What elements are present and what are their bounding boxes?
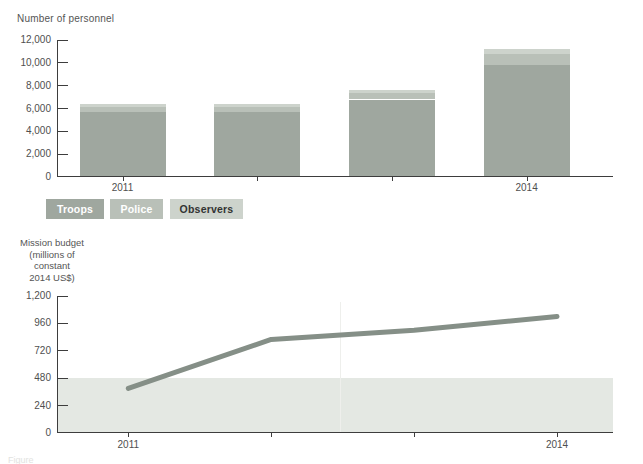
bar-segment-troops-2011 — [80, 112, 166, 176]
bar-segment-troops-2014 — [484, 65, 570, 176]
bar-segment-police-2012 — [214, 107, 300, 112]
legend-chip-troops: Troops — [46, 199, 104, 219]
personnel-y-tick — [58, 131, 68, 132]
bar-segment-troops-2013 — [349, 100, 435, 176]
legend-label-troops: Troops — [57, 203, 93, 215]
personnel-x-tick — [257, 177, 258, 181]
bar-segment-police-2011 — [80, 107, 166, 112]
bar-segment-observers-2012 — [214, 104, 300, 107]
personnel-y-tick — [58, 108, 68, 109]
personnel-y-tick-label: 6,000 — [7, 103, 51, 115]
legend-label-police: Police — [120, 203, 152, 215]
legend-label-observers: Observers — [180, 203, 234, 215]
personnel-y-tick-label: 4,000 — [7, 125, 51, 137]
budget-x-label-2011: 2011 — [118, 439, 140, 450]
budget-y-tick-label: 240 — [7, 400, 51, 412]
personnel-x-label-2011: 2011 — [112, 182, 134, 193]
budget-chart-title: Mission budget (millions of constant 201… — [6, 237, 98, 283]
personnel-x-tick — [527, 177, 528, 181]
legend-chip-observers: Observers — [170, 199, 243, 219]
budget-y-tick-label: 480 — [7, 372, 51, 384]
personnel-y-tick-label: 12,000 — [7, 34, 51, 46]
personnel-y-tick — [58, 40, 68, 41]
budget-y-tick-label: 1,200 — [7, 290, 51, 302]
bar-segment-observers-2011 — [80, 104, 166, 107]
budget-x-tick — [128, 433, 129, 437]
personnel-chart-title: Number of personnel — [17, 13, 114, 24]
budget-title-line-4: 2014 US$) — [6, 272, 98, 284]
bar-segment-police-2013 — [349, 93, 435, 99]
bar-segment-troops-2012 — [214, 112, 300, 176]
personnel-y-tick-label: 8,000 — [7, 80, 51, 92]
budget-x-tick — [271, 433, 272, 437]
budget-x-label-2014: 2014 — [546, 439, 568, 450]
figure-canvas: Number of personnel 02,0004,0006,0008,00… — [0, 0, 643, 464]
legend-chip-police: Police — [110, 199, 163, 219]
bar-segment-observers-2013 — [349, 90, 435, 93]
budget-title-line-3: constant — [6, 260, 98, 272]
budget-line — [128, 317, 557, 389]
personnel-x-tick — [392, 177, 393, 181]
personnel-plot-area: 02,0004,0006,0008,00010,00012,0002011201… — [57, 40, 612, 177]
figure-caption: Figure — [8, 455, 34, 464]
budget-x-tick — [414, 433, 415, 437]
budget-title-line-2: (millions of — [6, 249, 98, 261]
bar-segment-observers-2014 — [484, 49, 570, 54]
budget-x-tick — [557, 433, 558, 437]
personnel-y-tick — [58, 85, 68, 86]
budget-y-tick-label: 960 — [7, 317, 51, 329]
personnel-x-axis — [57, 176, 613, 177]
personnel-y-tick-label: 10,000 — [7, 57, 51, 69]
budget-line-svg — [57, 296, 612, 433]
budget-title-line-1: Mission budget — [6, 237, 98, 249]
bar-segment-police-2014 — [484, 54, 570, 65]
personnel-x-label-2014: 2014 — [515, 182, 537, 193]
personnel-y-tick — [58, 62, 68, 63]
personnel-y-tick-label: 2,000 — [7, 148, 51, 160]
budget-y-tick-label: 720 — [7, 345, 51, 357]
budget-plot-area: 02404807209601,20020112014 — [57, 296, 612, 433]
personnel-y-tick-label: 0 — [7, 171, 51, 183]
budget-y-tick-label: 0 — [7, 427, 51, 439]
personnel-y-tick — [58, 154, 68, 155]
personnel-x-tick — [123, 177, 124, 181]
